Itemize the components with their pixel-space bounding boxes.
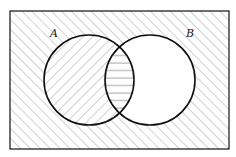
- set-b-label: B: [185, 27, 194, 40]
- venn-diagram: A B: [0, 0, 236, 157]
- set-a-label: A: [49, 27, 58, 40]
